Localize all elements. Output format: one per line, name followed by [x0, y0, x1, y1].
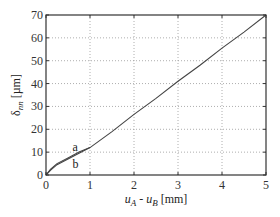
- x-tick-label: 4: [219, 178, 225, 192]
- annotation-a: a: [72, 140, 78, 154]
- y-axis-label: δnn [µm]: [9, 74, 25, 116]
- annotation-b: b: [72, 157, 78, 171]
- grid-lines: [46, 15, 266, 175]
- x-tick-label: 1: [87, 178, 93, 192]
- x-tick-label: 0: [43, 178, 49, 192]
- y-tick-label: 30: [31, 99, 43, 113]
- series-line-a: [46, 15, 266, 175]
- y-tick-label: 50: [31, 54, 43, 68]
- data-series: [46, 15, 266, 175]
- line-chart: 012345 010203040506070 ab uA - uB [mm] δ…: [0, 0, 280, 217]
- x-axis-label: uA - uB [mm]: [125, 192, 188, 208]
- y-tick-label: 0: [37, 168, 43, 182]
- y-tick-label: 20: [31, 122, 43, 136]
- x-tick-label: 3: [175, 178, 181, 192]
- y-tick-label: 40: [31, 77, 43, 91]
- y-tick-label: 10: [31, 145, 43, 159]
- y-tick-label: 70: [31, 8, 43, 22]
- y-axis-ticks: 010203040506070: [31, 8, 266, 182]
- x-tick-label: 5: [263, 178, 269, 192]
- x-tick-label: 2: [131, 178, 137, 192]
- plot-frame: [46, 15, 266, 175]
- series-line-b: [46, 148, 90, 175]
- y-tick-label: 60: [31, 31, 43, 45]
